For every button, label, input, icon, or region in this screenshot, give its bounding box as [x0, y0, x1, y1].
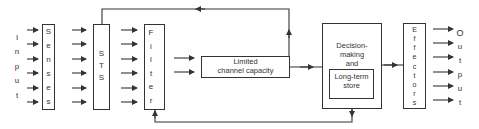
senses-label: S e n s e s — [42, 28, 55, 106]
input-letter: t — [13, 92, 21, 100]
effectors-letter: t — [414, 72, 416, 79]
effectors-letter: o — [413, 81, 417, 88]
decision-making-label: Decision- making and — [322, 41, 382, 68]
output-letter: O — [456, 29, 464, 38]
input-letter: n — [13, 48, 21, 56]
store-line1: Long-term — [329, 72, 374, 81]
filter-letter: i — [150, 43, 152, 51]
effectors-letter: s — [413, 99, 417, 106]
decision-line3: and — [322, 59, 382, 68]
output-letter: u — [456, 43, 464, 51]
channel-line1: Limited — [201, 57, 290, 66]
sts-letter: T — [99, 62, 104, 70]
senses-letter: e — [46, 42, 50, 50]
output-letter: t — [456, 57, 464, 65]
output-letter: t — [456, 99, 464, 107]
senses-letter: s — [47, 98, 51, 106]
effectors-letter: f — [414, 44, 416, 51]
filter-to-channel-arrows — [174, 58, 194, 72]
filter-letter: t — [150, 70, 152, 78]
senses-letter: e — [46, 84, 50, 92]
filter-label: F i l t e r — [144, 29, 158, 105]
decision-line2: making — [322, 50, 382, 59]
filter-letter: l — [150, 56, 152, 64]
sts-label: S T S — [93, 50, 110, 82]
filter-letter: F — [149, 29, 154, 37]
effectors-letter: c — [413, 63, 417, 70]
input-arrows — [27, 30, 38, 102]
senses-letter: n — [46, 56, 50, 64]
store-line2: store — [329, 81, 374, 90]
effectors-letter: r — [413, 90, 415, 97]
filter-letter: e — [149, 83, 153, 91]
effectors-letter: f — [414, 35, 416, 42]
channel-line2: channel capacity — [201, 66, 290, 75]
output-letter: u — [456, 85, 464, 93]
effectors-letter: E — [412, 26, 417, 33]
sts-letter: S — [99, 50, 104, 58]
input-letter: p — [13, 63, 21, 71]
senses-to-sts-arrows — [72, 30, 86, 102]
decision-line1: Decision- — [322, 41, 382, 50]
top-feedback-loop — [102, 9, 289, 56]
input-letter: I — [13, 34, 21, 42]
effectors-label: E f f e c t o r s — [403, 26, 426, 106]
senses-letter: s — [47, 70, 51, 78]
limited-channel-capacity-label: Limited channel capacity — [201, 57, 290, 75]
output-letter: p — [456, 71, 464, 79]
long-term-store-label: Long-term store — [329, 72, 374, 90]
filter-letter: r — [150, 97, 153, 105]
output-arrows — [433, 29, 453, 100]
senses-letter: S — [46, 28, 51, 36]
input-letter: u — [13, 77, 21, 85]
effectors-letter: e — [413, 53, 417, 60]
sts-to-filter-arrows — [121, 30, 137, 102]
sts-letter: S — [99, 74, 104, 82]
